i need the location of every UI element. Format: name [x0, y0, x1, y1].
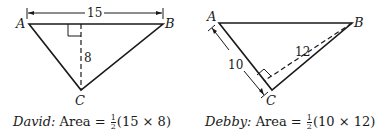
side-length-label: 10: [228, 58, 243, 72]
fraction-numerator: 1: [111, 114, 116, 122]
right-vertex-c-label: C: [266, 93, 276, 108]
david-caption: David: Area = 12(15 × 8): [13, 114, 171, 131]
vertex-a-label: A: [15, 16, 25, 31]
debby-caption: Debby: Area = 12(10 × 12): [205, 114, 375, 131]
right-triangle: [219, 23, 352, 90]
fraction-denominator: 2: [307, 122, 312, 131]
fraction-denominator: 2: [111, 122, 116, 131]
base-length-label: 15: [87, 6, 102, 20]
vertex-b-label: B: [164, 16, 175, 31]
left-triangle-figure: [27, 8, 163, 90]
debby-expression: (10 × 12): [313, 114, 375, 129]
right-vertex-a-label: A: [206, 9, 216, 24]
david-expression: (15 × 8): [117, 114, 171, 129]
fraction-numerator: 1: [307, 114, 312, 122]
right-vertex-b-label: B: [353, 15, 364, 30]
debby-name: Debby:: [205, 114, 251, 129]
david-area-prefix: Area =: [60, 114, 106, 129]
david-name: David:: [13, 114, 55, 129]
left-triangle: [29, 24, 163, 90]
debby-area-prefix: Area =: [256, 114, 302, 129]
david-fraction: 12: [111, 114, 116, 131]
right-height-length-label: 12: [295, 45, 310, 59]
height-length-label: 8: [84, 51, 92, 65]
debby-fraction: 12: [307, 114, 312, 131]
vertex-c-label: C: [75, 93, 85, 108]
